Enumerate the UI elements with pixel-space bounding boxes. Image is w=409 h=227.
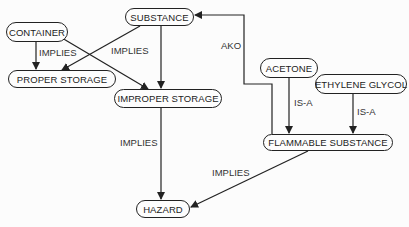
node-acetone: ACETONE <box>260 58 318 78</box>
edge-label-implies-substance: IMPLIES <box>111 45 149 56</box>
edge-flammable-hazard <box>191 151 308 207</box>
edge-label-isa-glycol: IS-A <box>357 106 375 117</box>
node-improper-storage: IMPROPER STORAGE <box>114 89 222 108</box>
edge-label-implies-container: IMPLIES <box>39 47 77 58</box>
node-substance: SUBSTANCE <box>125 8 194 26</box>
edge-label-implies-flammable: IMPLIES <box>212 167 250 178</box>
node-flammable-substance: FLAMMABLE SUBSTANCE <box>263 134 393 151</box>
edge-label-implies-improper: IMPLIES <box>120 137 158 148</box>
node-hazard: HAZARD <box>136 200 190 218</box>
node-proper-storage: PROPER STORAGE <box>8 70 116 88</box>
node-ethylene-glycol: ETHYLENE GLYCOL <box>315 74 407 94</box>
edge-flammable-substance <box>195 15 272 134</box>
edge-label-ako: AKO <box>221 40 241 51</box>
edge-label-isa-acetone: IS-A <box>294 97 312 108</box>
node-container: CONTAINER <box>6 22 68 42</box>
